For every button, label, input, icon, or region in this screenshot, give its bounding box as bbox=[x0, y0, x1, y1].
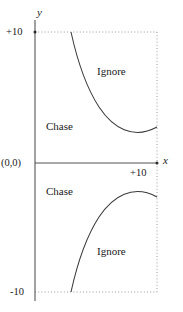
x-axis-tip-marker bbox=[156, 162, 159, 165]
lower-boundary-curve bbox=[71, 192, 157, 292]
origin-label: (0,0) bbox=[1, 158, 21, 169]
x-axis-label: x bbox=[163, 155, 168, 166]
region-label-chase-lower: Chase bbox=[46, 186, 73, 197]
plot-canvas bbox=[0, 0, 183, 312]
region-label-ignore-upper: Ignore bbox=[97, 66, 126, 77]
x-axis-tick-max: +10 bbox=[130, 168, 146, 179]
y-axis-tick-max: +10 bbox=[6, 27, 22, 38]
upper-boundary-curve bbox=[71, 32, 157, 132]
y-axis-tip-marker bbox=[34, 31, 37, 34]
y-axis-tick-min: -10 bbox=[10, 287, 24, 298]
region-label-chase-upper: Chase bbox=[46, 121, 73, 132]
region-label-ignore-lower: Ignore bbox=[97, 246, 126, 257]
chase-ignore-region-diagram: y x +10 -10 (0,0) +10 Ignore Chase Chase… bbox=[0, 0, 183, 312]
y-axis-label: y bbox=[37, 7, 42, 18]
